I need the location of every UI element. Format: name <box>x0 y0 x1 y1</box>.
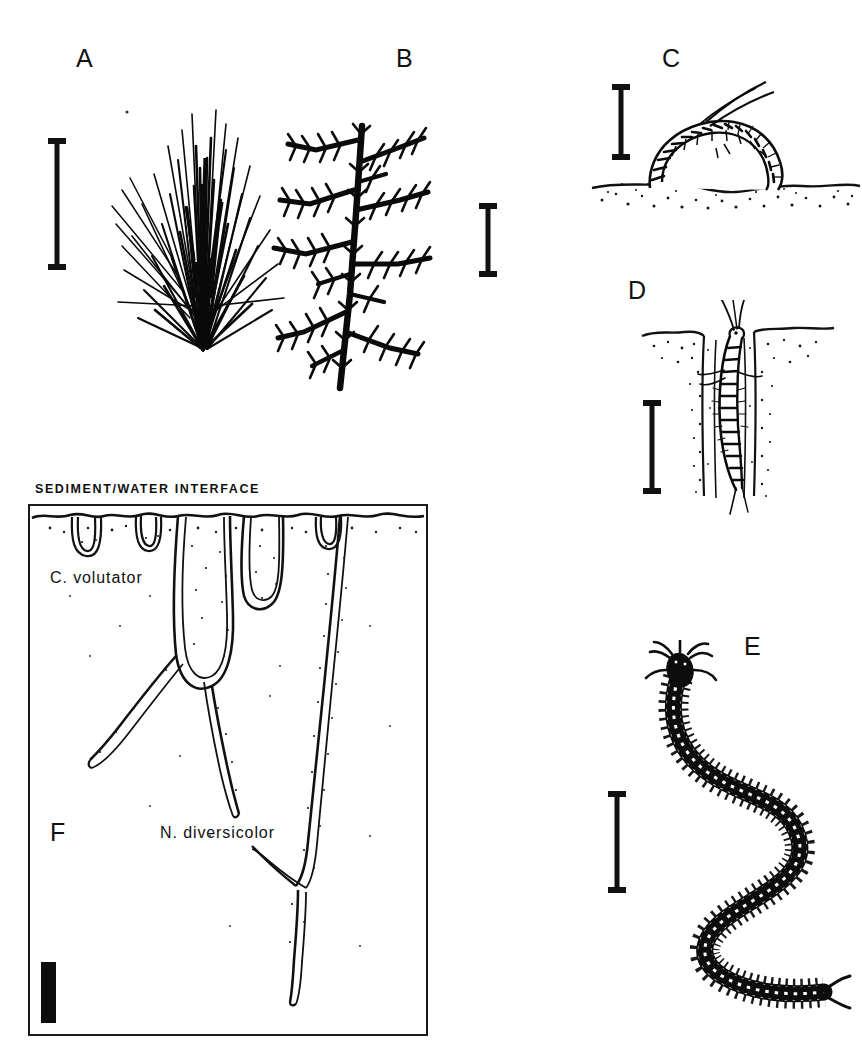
panel-letter-f: F <box>50 820 66 845</box>
amphipod-in-burrow-icon <box>638 300 838 520</box>
species-label-c-volutator: C. volutator <box>50 570 143 586</box>
amphipod-surface-icon <box>588 60 862 210</box>
branching-alga-icon <box>258 106 458 394</box>
scale-bar-e <box>605 791 629 893</box>
figure-plate: A <box>0 0 862 1047</box>
species-label-n-diversicolor: N. diversicolor <box>160 825 275 841</box>
sediment-water-interface-label: SEDIMENT/WATER INTERFACE <box>35 483 260 496</box>
scale-bar-b <box>476 203 500 277</box>
scale-bar-f <box>41 962 56 1023</box>
polychaete-worm-icon <box>636 640 852 1020</box>
panel-letter-b: B <box>396 46 413 71</box>
scale-bar-a <box>44 138 70 270</box>
panel-letter-a: A <box>76 46 93 71</box>
